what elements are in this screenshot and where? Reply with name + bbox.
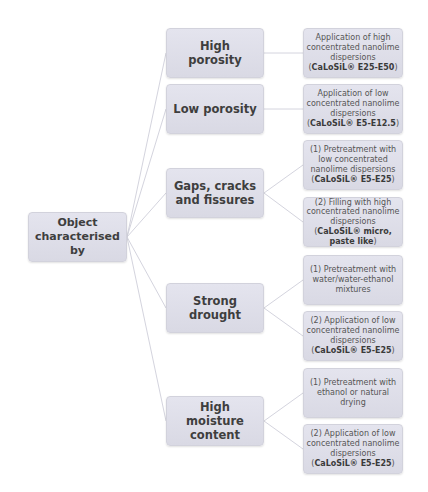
root-node: Object characterised by [28, 212, 127, 262]
root-label-line2: characterised by [32, 230, 123, 258]
category-label: Strong drought [173, 294, 257, 322]
connector-root-high-porosity [127, 53, 166, 237]
connector-moisture-leaf-2 [264, 421, 303, 449]
category-label: Low porosity [173, 102, 256, 116]
treatment-gaps-2: (2) Filling with high concentrated nanol… [303, 197, 403, 247]
root-label-line1: Object [32, 216, 123, 230]
product-name: CaLoSiL® E5-E25 [314, 175, 391, 184]
treatment-suffix: ) [373, 237, 376, 246]
category-gaps-cracks-fissures: Gaps, cracks and fissures [166, 168, 264, 218]
treatment-suffix: ) [392, 459, 395, 468]
treatment-high-porosity: Application of high concentrated nanolim… [303, 28, 403, 78]
treatment-suffix: ) [396, 119, 399, 128]
treatment-moisture-2: (2) Application of low concentrated nano… [303, 424, 403, 474]
connector-root-gaps [127, 193, 166, 237]
category-high-porosity: High porosity [166, 28, 264, 78]
treatment-text: (1) Pretreatment with ethanol or natural… [310, 378, 396, 407]
treatment-text: (1) Pretreatment with water/water-ethano… [310, 265, 396, 294]
treatment-drought-2: (2) Application of low concentrated nano… [303, 311, 403, 361]
connector-drought-leaf-2 [264, 308, 303, 336]
connector-root-moisture [127, 237, 166, 421]
product-name: CaLoSiL® E5-E25 [314, 459, 391, 468]
product-name: CaLoSiL® E25-E50 [312, 63, 395, 72]
product-name: CaLoSiL® E5-E25 [314, 346, 391, 355]
treatment-gaps-1: (1) Pretreatment with low concentrated n… [303, 140, 403, 190]
category-label: High porosity [173, 39, 257, 67]
connector-root-drought [127, 237, 166, 308]
connector-gaps-leaf-1 [264, 165, 303, 193]
connector-gaps-leaf-2 [264, 193, 303, 222]
category-label: Gaps, cracks and fissures [173, 179, 257, 207]
treatment-moisture-1: (1) Pretreatment with ethanol or natural… [303, 368, 403, 418]
product-name: CaLoSiL® E5-E12.5 [310, 119, 396, 128]
category-high-moisture-content: High moisture content [166, 396, 264, 446]
connector-drought-leaf-1 [264, 280, 303, 308]
product-name: CaLoSiL® micro, paste like [317, 227, 392, 246]
treatment-suffix: ) [392, 175, 395, 184]
treatment-low-porosity: Application of low concentrated nanolime… [303, 84, 403, 134]
category-low-porosity: Low porosity [166, 84, 264, 134]
category-strong-drought: Strong drought [166, 283, 264, 333]
connector-moisture-leaf-1 [264, 393, 303, 421]
treatment-suffix: ) [392, 346, 395, 355]
treatment-suffix: ) [394, 63, 397, 72]
treatment-drought-1: (1) Pretreatment with water/water-ethano… [303, 255, 403, 305]
connector-root-low-porosity [127, 109, 166, 237]
category-label: High moisture content [173, 400, 257, 442]
